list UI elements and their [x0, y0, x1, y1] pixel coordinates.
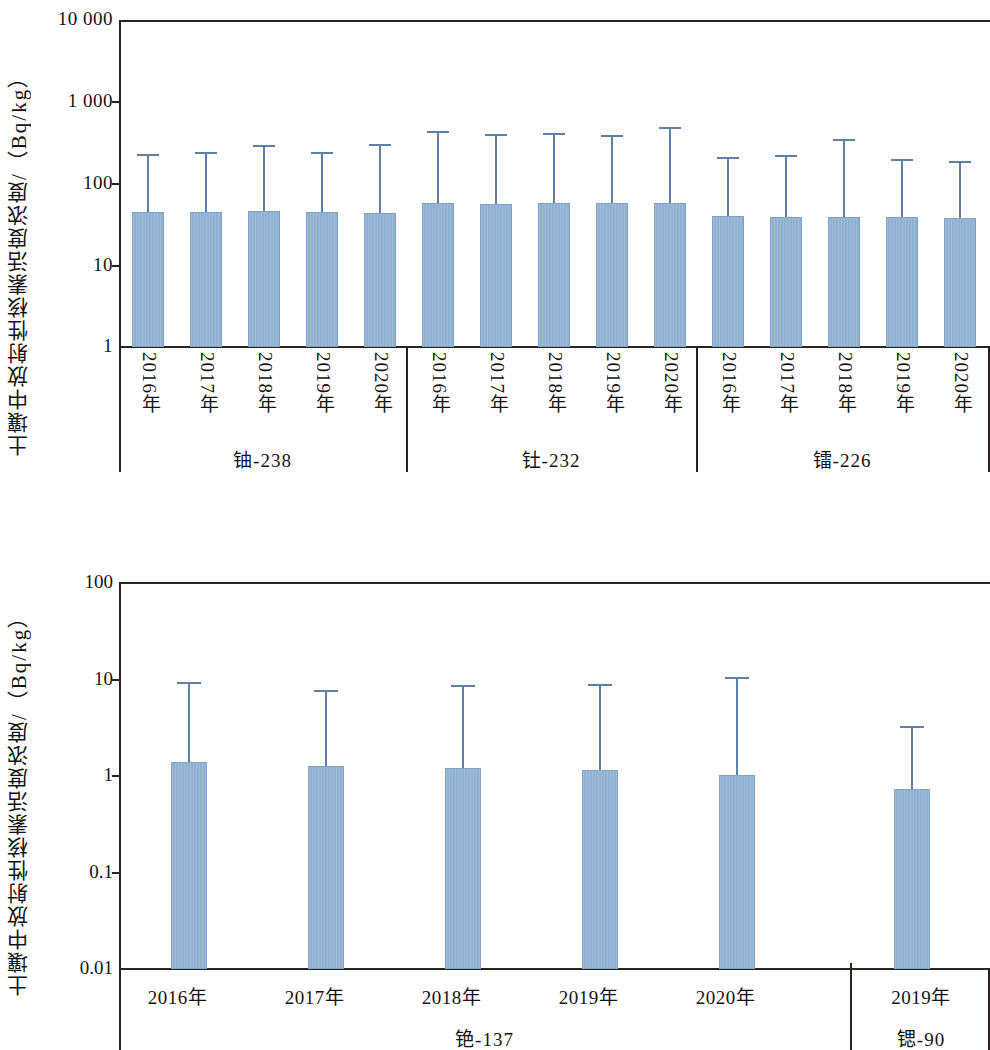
lower-xtick-cs137-2016: 2016年 [119, 982, 236, 1009]
upper-ytick-10000: 10 000 [28, 8, 113, 30]
lower-xtick-cs137-2020: 2020年 [667, 982, 784, 1009]
lower-ytick-1: 1 [28, 764, 113, 786]
bar-sr90-2019 [894, 789, 930, 969]
lower-y-axis-label: 土壤中放射性核素活度浓度/（Bq/kg） [4, 600, 34, 1000]
upper-tickmark-10 [112, 265, 121, 267]
lower-ytick-0.01: 0.01 [28, 957, 113, 979]
upper-xtick-th232-2017: 2017年 [484, 352, 511, 414]
bar-cs137-2018 [445, 768, 481, 969]
upper-tickmark-1000 [112, 101, 121, 103]
error-cap-high [427, 131, 449, 133]
bar-cs137-2019 [582, 770, 618, 969]
upper-xtick-th232-2020: 2020年 [658, 352, 685, 414]
error-cap-high [725, 677, 749, 679]
lower-xtick-cs137-2018: 2018年 [393, 982, 510, 1009]
error-cap-high [543, 133, 565, 135]
lower-xtick-cs137-2017: 2017年 [256, 982, 373, 1009]
bar-cs137-2017 [308, 766, 344, 969]
lower-xtick-cs137-2019: 2019年 [530, 982, 647, 1009]
bar-th232-2020 [654, 203, 686, 347]
lower-ytick-0.1: 0.1 [28, 861, 113, 883]
bar-cs137-2020 [719, 775, 755, 969]
upper-xtick-ra226-2019: 2019年 [890, 352, 917, 414]
upper-ytick-10: 10 [28, 254, 113, 276]
error-cap-high [137, 154, 159, 156]
error-cap-high [485, 134, 507, 136]
upper-xtick-u238-2019: 2019年 [310, 352, 337, 414]
error-cap-high [775, 155, 797, 157]
error-cap-high [195, 152, 217, 154]
bar-ra226-2016 [712, 216, 744, 347]
error-cap-high [717, 157, 739, 159]
error-cap-high [601, 135, 623, 137]
error-cap-high [177, 682, 201, 684]
upper-top-line [119, 20, 990, 22]
bar-u238-2016 [132, 212, 164, 347]
upper-xtick-u238-2016: 2016年 [136, 352, 163, 414]
bar-u238-2020 [364, 213, 396, 347]
upper-xtick-th232-2019: 2019年 [600, 352, 627, 414]
lower-xtick-sr90-2019: 2019年 [854, 982, 988, 1009]
bar-ra226-2019 [886, 217, 918, 347]
error-cap-high [588, 684, 612, 686]
bar-th232-2016 [422, 203, 454, 347]
bar-th232-2019 [596, 203, 628, 347]
upper-tickmark-100 [112, 183, 121, 185]
bar-th232-2018 [538, 203, 570, 347]
error-cap-high [369, 144, 391, 146]
lower-baseline [119, 968, 990, 970]
bar-ra226-2020 [944, 218, 976, 347]
bar-th232-2017 [480, 204, 512, 347]
lower-tickmark-0.1 [112, 872, 121, 874]
upper-group-label-u238: 铀-238 [119, 445, 406, 472]
upper-xtick-ra226-2020: 2020年 [948, 352, 975, 414]
upper-ytick-1: 1 [28, 335, 113, 357]
error-cap-high [891, 159, 913, 161]
upper-xtick-u238-2018: 2018年 [252, 352, 279, 414]
lower-top-line [119, 582, 990, 584]
lower-group-label-sr90: 锶-90 [854, 1024, 988, 1050]
upper-ytick-100: 100 [28, 172, 113, 194]
error-cap-high [253, 145, 275, 147]
error-cap-high [311, 152, 333, 154]
lower-tickmark-1 [112, 775, 121, 777]
lower-group-sep-1 [850, 963, 852, 1050]
lower-ytick-10: 10 [28, 668, 113, 690]
error-cap-high [900, 726, 924, 728]
upper-xtick-ra226-2018: 2018年 [832, 352, 859, 414]
error-cap-high [949, 161, 971, 163]
upper-xtick-th232-2018: 2018年 [542, 352, 569, 414]
lower-group-label-cs137: 铯-137 [119, 1024, 850, 1050]
error-cap-high [659, 127, 681, 129]
error-cap-high [833, 139, 855, 141]
upper-xtick-u238-2017: 2017年 [194, 352, 221, 414]
bar-u238-2018 [248, 211, 280, 347]
upper-xtick-u238-2020: 2020年 [368, 352, 395, 414]
upper-xtick-ra226-2017: 2017年 [774, 352, 801, 414]
upper-xtick-th232-2016: 2016年 [426, 352, 453, 414]
radionuclide-figure: 土壤中放射性核素活度浓度/（Bq/kg） 10 000 1 000 100 10… [0, 0, 990, 1050]
bar-cs137-2016 [171, 762, 207, 969]
upper-ytick-1000: 1 000 [28, 90, 113, 112]
bar-u238-2017 [190, 212, 222, 347]
upper-xtick-ra226-2016: 2016年 [716, 352, 743, 414]
error-cap-high [451, 685, 475, 687]
lower-ytick-100: 100 [28, 571, 113, 593]
bar-u238-2019 [306, 212, 338, 347]
bar-ra226-2017 [770, 217, 802, 347]
upper-group-label-ra226: 镭-226 [696, 445, 988, 472]
lower-tickmark-10 [112, 679, 121, 681]
upper-group-label-th232: 钍-232 [406, 445, 696, 472]
error-cap-high [314, 690, 338, 692]
bar-ra226-2018 [828, 217, 860, 347]
